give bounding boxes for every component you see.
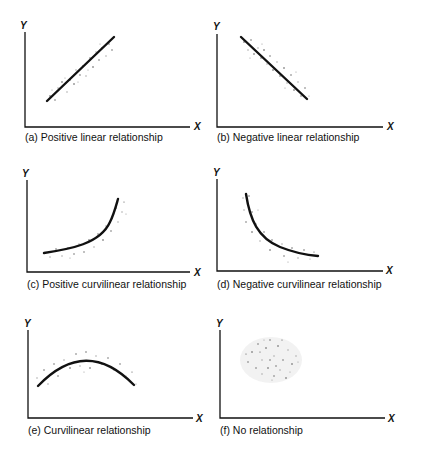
x-axis-label: X: [193, 267, 202, 278]
axes: [220, 330, 385, 418]
x-axis-label: X: [385, 265, 394, 276]
x-axis-label: X: [387, 413, 396, 424]
panel-c-positive-curvilinear: Y X (c) Positive curvilinear relationshi…: [22, 168, 202, 290]
panel-caption: (c) Positive curvilinear relationship: [27, 278, 186, 290]
panel-caption: (d) Negative curvilinear relationship: [217, 278, 382, 290]
panel-a-positive-linear: Y X (a) Positive linear relationship: [20, 20, 202, 143]
panel-caption: (f) No relationship: [220, 424, 303, 436]
scatter-points: [49, 43, 113, 100]
y-axis-label: Y: [213, 167, 221, 178]
y-axis-label: Y: [216, 318, 224, 329]
axes: [25, 32, 190, 127]
axes: [217, 179, 383, 271]
x-axis-label: X: [193, 121, 202, 132]
x-axis-label: X: [386, 121, 395, 132]
trend-curve: [246, 194, 318, 256]
y-axis-label: Y: [24, 318, 32, 329]
scatter-points: [36, 351, 136, 384]
scatter-points: [242, 195, 314, 262]
y-axis-label: Y: [22, 168, 30, 179]
y-axis-label: Y: [20, 20, 28, 31]
y-axis-label: Y: [213, 21, 221, 32]
panel-caption: (a) Positive linear relationship: [25, 131, 163, 143]
panel-caption: (e) Curvilinear relationship: [28, 424, 151, 436]
panel-d-negative-curvilinear: Y X (d) Negative curvilinear relationshi…: [213, 167, 394, 290]
scatter-relationship-figure: Y X (a) Positive linear relationship Y X: [0, 0, 421, 459]
scatter-points: [240, 337, 302, 383]
panel-f-no-relationship: Y X (f) No relationship: [216, 318, 396, 436]
x-axis-label: X: [195, 413, 204, 424]
trend-curve: [44, 199, 118, 253]
panel-caption: (b) Negative linear relationship: [217, 131, 360, 143]
panel-e-curvilinear: Y X (e) Curvilinear relationship: [24, 318, 204, 436]
axes: [217, 34, 383, 127]
panel-b-negative-linear: Y X (b) Negative linear relationship: [213, 21, 395, 143]
trend-line: [241, 37, 307, 99]
trend-line: [47, 37, 114, 101]
